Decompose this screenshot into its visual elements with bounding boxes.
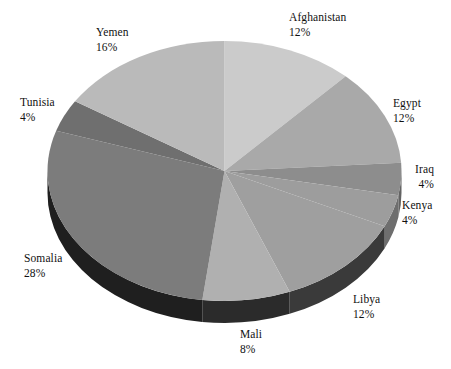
slice-label-libya-name: Libya <box>353 292 380 307</box>
slice-label-mali-value: 8% <box>240 342 262 357</box>
pie-chart-svg <box>0 0 451 369</box>
slice-label-mali-name: Mali <box>240 327 262 342</box>
slice-label-somalia-name: Somalia <box>24 251 62 266</box>
slice-label-yemen-value: 16% <box>96 40 129 55</box>
slice-label-yemen: Yemen 16% <box>96 25 129 54</box>
slice-label-kenya: Kenya 4% <box>402 198 433 227</box>
slice-label-libya-value: 12% <box>353 307 380 322</box>
slice-label-iraq-value: 4% <box>396 177 434 192</box>
slice-label-afghanistan-name: Afghanistan <box>289 10 346 25</box>
slice-label-libya: Libya 12% <box>353 292 380 321</box>
slice-label-mali: Mali 8% <box>240 327 262 356</box>
slice-label-tunisia: Tunisia 4% <box>20 95 55 124</box>
slice-label-egypt-name: Egypt <box>393 96 421 111</box>
slice-label-iraq-name: Iraq <box>396 162 434 177</box>
slice-label-kenya-value: 4% <box>402 213 433 228</box>
slice-label-yemen-name: Yemen <box>96 25 129 40</box>
pie-chart-figure: Afghanistan 12% Egypt 12% Iraq 4% Kenya … <box>0 0 451 369</box>
slice-label-tunisia-name: Tunisia <box>20 95 55 110</box>
slice-label-afghanistan: Afghanistan 12% <box>289 10 346 39</box>
pie-top-slices <box>47 41 401 301</box>
slice-label-tunisia-value: 4% <box>20 110 55 125</box>
slice-label-somalia: Somalia 28% <box>24 251 62 280</box>
slice-label-afghanistan-value: 12% <box>289 25 346 40</box>
slice-label-egypt-value: 12% <box>393 111 421 126</box>
slice-label-iraq: Iraq 4% <box>396 162 434 191</box>
slice-label-somalia-value: 28% <box>24 266 62 281</box>
slice-label-kenya-name: Kenya <box>402 198 433 213</box>
slice-label-egypt: Egypt 12% <box>393 96 421 125</box>
